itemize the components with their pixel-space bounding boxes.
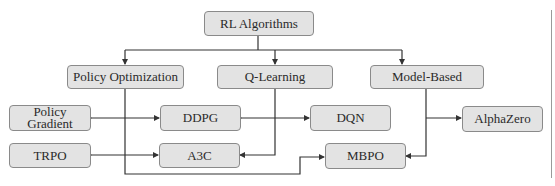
node-alphazero: AlphaZero — [462, 106, 543, 132]
node-label: Q-Learning — [245, 71, 306, 83]
node-label: MBPO — [347, 150, 384, 162]
node-model-based: Model-Based — [370, 65, 484, 89]
edge-mb-mbpo — [406, 88, 426, 156]
node-label: Policy Optimization — [73, 71, 178, 83]
node-dqn: DQN — [310, 105, 391, 131]
node-label: A3C — [187, 150, 212, 162]
node-ddpg: DDPG — [160, 105, 241, 131]
node-mbpo: MBPO — [325, 143, 406, 169]
node-label: Model-Based — [392, 71, 462, 83]
node-label: TRPO — [33, 150, 66, 162]
node-label: DQN — [336, 112, 364, 124]
node-policy-gradient: Policy Gradient — [9, 105, 91, 131]
node-label: RL Algorithms — [220, 18, 298, 30]
node-label: DDPG — [183, 112, 218, 124]
node-trpo: TRPO — [9, 143, 91, 168]
node-q-learning: Q-Learning — [217, 65, 333, 89]
node-label: AlphaZero — [474, 113, 530, 125]
edge-ql-a3c — [240, 88, 275, 155]
node-policy-optimization: Policy Optimization — [67, 65, 184, 89]
node-a3c: A3C — [159, 143, 240, 168]
node-root: RL Algorithms — [204, 11, 314, 36]
node-label: Policy Gradient — [20, 106, 80, 130]
